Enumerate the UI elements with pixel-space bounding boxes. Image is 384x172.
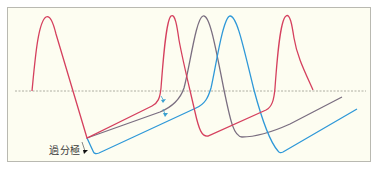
shift-arrow-1 xyxy=(161,96,166,103)
hyperpolarization-label: 過分極 xyxy=(49,142,81,157)
blue-trace xyxy=(87,16,357,154)
red-trace xyxy=(32,16,313,138)
shift-arrow-2 xyxy=(163,109,168,117)
hyperpolarization-pointer xyxy=(82,142,88,154)
